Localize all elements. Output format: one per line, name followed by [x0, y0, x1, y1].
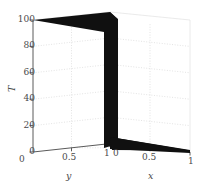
right-panel-gridlines: [110, 24, 190, 148]
tick-label-T-40: 40: [24, 93, 35, 103]
figure-canvas: 100 80 60 40 20 0 T 0 0.5 1 y 0 0.5 1 x: [0, 0, 202, 194]
tick-label-T-20: 20: [24, 120, 35, 130]
tick-label-y-1: 1: [104, 148, 110, 158]
tick-label-y-0: 0: [19, 154, 25, 164]
tick-label-x-0: 0: [113, 148, 119, 158]
axis-label-T: T: [6, 86, 17, 92]
tick-label-x-05: 0.5: [142, 152, 156, 162]
tick-label-T-60: 60: [24, 67, 35, 77]
tick-label-x-1: 1: [188, 156, 194, 166]
tick-label-T-80: 80: [24, 40, 35, 50]
top-edge-right: [110, 12, 190, 20]
axis-label-x: x: [148, 170, 153, 181]
tick-label-T-0: 0: [29, 146, 35, 156]
tick-label-T-100: 100: [18, 14, 35, 24]
axis-label-y: y: [66, 170, 71, 181]
surface-mesh: [33, 12, 190, 153]
tick-label-y-05: 0.5: [62, 152, 76, 162]
left-panel-gridlines: [33, 24, 110, 148]
surface-top-plateau: [33, 12, 115, 32]
surface-vertical-wall: [104, 19, 118, 148]
